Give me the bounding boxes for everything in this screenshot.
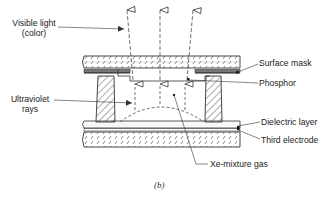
label-phosphor: Phosphor <box>259 78 296 88</box>
label-visible-light-line1: Visible light <box>3 18 65 28</box>
bottom-glass-plate <box>83 132 241 147</box>
label-dielectric-layer: Dielectric layer <box>261 117 317 127</box>
label-surface-mask: Surface mask <box>259 58 312 68</box>
label-third-electrode: Third electrode <box>261 135 318 145</box>
barrier-rib-right <box>205 76 222 122</box>
top-glass-plate <box>83 56 241 68</box>
figure-caption: (b) <box>154 180 165 190</box>
barrier-rib-left <box>96 76 115 122</box>
surface-mask <box>84 70 240 74</box>
label-visible-light: Visible light (color) <box>3 18 65 38</box>
dielectric-layer <box>83 121 241 128</box>
label-xe-gas: Xe-mixture gas <box>210 159 268 169</box>
label-ultraviolet-line2: rays <box>4 104 56 114</box>
visible-light-arrows <box>127 10 193 80</box>
label-visible-light-line2: (color) <box>3 28 65 38</box>
label-ultraviolet: Ultraviolet rays <box>4 94 56 114</box>
discharge-arc <box>120 107 204 122</box>
label-ultraviolet-line1: Ultraviolet <box>4 94 56 104</box>
